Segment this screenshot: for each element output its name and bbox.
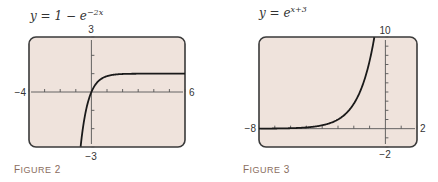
- figure-2-ymax-label: 3: [88, 24, 94, 35]
- figure-2-equation: y = 1 − e−2x: [29, 8, 104, 23]
- figure-3-ymin-label: −2: [379, 149, 391, 160]
- figure-3-xmin-label: −8: [245, 123, 257, 134]
- figure-3-xmax-label: 2: [420, 123, 426, 134]
- figure-2-ymin-label: −3: [85, 151, 97, 162]
- figure-3-caption: FIGURE 3: [243, 164, 290, 175]
- figure-3-equation: y = ex+3: [258, 5, 307, 20]
- figure-3-plot-area: [259, 37, 417, 147]
- figure-2-caption: FIGURE 2: [14, 164, 61, 175]
- figure-2-xmin-label: −4: [15, 87, 27, 98]
- figure-3-ymax-label: 10: [379, 25, 391, 36]
- figure-2-panel: y = 1 − e−2x 3 −3 −4 6 FIGURE 2: [0, 0, 219, 182]
- figure-3-chart: y = ex+3 10 −2 −8 2: [219, 0, 438, 182]
- figure-3-panel: y = ex+3 10 −2 −8 2 FIGURE 3: [219, 0, 438, 182]
- figure-2-chart: y = 1 − e−2x 3 −3 −4 6: [0, 0, 219, 182]
- figure-2-xmax-label: 6: [189, 87, 195, 98]
